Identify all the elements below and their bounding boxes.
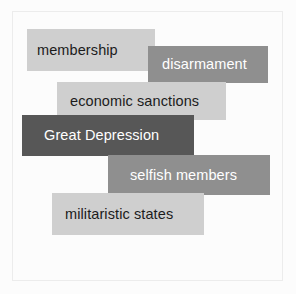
concept-box-label: militaristic states <box>65 207 173 222</box>
concept-box-label: membership <box>37 43 118 58</box>
concept-box-label: disarmament <box>162 57 247 72</box>
concept-box-label: economic sanctions <box>70 94 199 109</box>
concept-diagram-canvas: membership disarmament economic sanction… <box>0 0 296 294</box>
concept-box-disarmament[interactable]: disarmament <box>148 46 268 83</box>
concept-box-militaristic-states[interactable]: militaristic states <box>52 193 204 235</box>
concept-box-membership[interactable]: membership <box>27 29 155 71</box>
concept-box-label: Great Depression <box>44 128 159 143</box>
concept-box-selfish-members[interactable]: selfish members <box>108 155 270 195</box>
concept-box-great-depression[interactable]: Great Depression <box>22 115 194 156</box>
concept-box-label: selfish members <box>130 168 237 183</box>
